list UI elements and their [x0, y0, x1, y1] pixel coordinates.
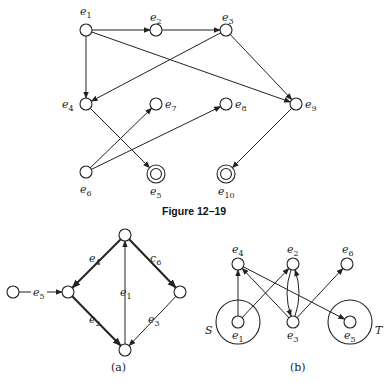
node-e4 [232, 258, 244, 270]
label-e2: e2 [150, 11, 162, 26]
figure-b-graph: STe4e2e6e1e3e5 [205, 243, 384, 344]
figure-a-label: (a) [111, 361, 126, 374]
label-e8: e8 [235, 98, 247, 113]
edge-label-c6: c6 [150, 252, 161, 267]
node-e4 [80, 98, 92, 110]
diagram-canvas: e1e2e3e4e7e8e9e6e5e10 Figure 12–19 e5e4c… [0, 0, 390, 382]
node-e1 [232, 316, 244, 328]
node-e7 [150, 98, 162, 110]
label-e4: e4 [62, 98, 74, 113]
label-e3: e3 [222, 11, 234, 26]
node-e5 [344, 316, 356, 328]
node-e10 [221, 169, 232, 180]
node-L [7, 286, 19, 298]
edge-e4-e5 [243, 267, 344, 319]
node-e6 [341, 258, 353, 270]
edge-label-e4: e4 [89, 252, 101, 267]
figure-a-graph: e5e4c6e2e3e1 [7, 229, 186, 356]
set-label-T: T [375, 324, 384, 337]
edge-label-e2: e2 [89, 313, 101, 328]
label-e6: e6 [342, 243, 354, 258]
label-e2: e2 [287, 243, 299, 258]
label-e3: e3 [287, 329, 299, 344]
node-e5 [151, 169, 162, 180]
node-e8 [220, 98, 232, 110]
node-R [174, 286, 186, 298]
figure-12-19-graph: e1e2e3e4e7e8e9e6e5e10 [62, 5, 317, 200]
label-e5: e5 [150, 185, 162, 200]
node-e2 [287, 258, 299, 270]
node-M [62, 286, 74, 298]
label-e6: e6 [80, 183, 92, 198]
node-e9 [290, 98, 302, 110]
node-e1 [80, 24, 92, 36]
node-T [119, 229, 131, 241]
node-e3 [287, 316, 299, 328]
figure-caption: Figure 12–19 [162, 205, 226, 217]
figure-b-label: (b) [290, 361, 306, 374]
label-e7: e7 [165, 98, 177, 113]
label-e4: e4 [232, 243, 244, 258]
edge-e9-e10 [232, 108, 291, 167]
label-e10: e10 [218, 185, 235, 200]
node-e6 [80, 166, 92, 178]
edge-e3-e2 [295, 270, 299, 316]
edge-label-e1: e1 [120, 286, 132, 301]
set-label-S: S [205, 324, 213, 337]
edge-e2-e3 [287, 270, 291, 316]
edge-e6-e8 [91, 107, 220, 170]
label-e9: e9 [305, 98, 317, 113]
label-e1: e1 [80, 5, 92, 20]
edge-e3-e9 [230, 34, 292, 99]
edge-e3-e4 [91, 33, 220, 101]
node-B [119, 344, 131, 356]
